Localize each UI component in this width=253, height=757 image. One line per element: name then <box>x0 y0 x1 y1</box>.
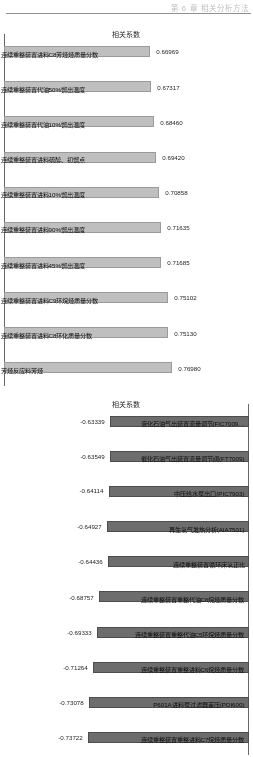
scanned-page: 第 6 章 相关分析方法 相关系数 0.669690.673170.684600… <box>0 0 253 757</box>
category-label-cell: 芳烃反应料芳烃 <box>4 350 5 385</box>
category-label: 再生氢气发热分析(AIA7501) <box>169 524 245 533</box>
category-label-cell: 连续重整装置进料C9环烷烃质量分数 <box>4 280 5 315</box>
category-label: 连续重整装置重整进料C7烷烃质量分数 <box>141 735 245 744</box>
category-label: 连续重整装置进料90%馏出温度 <box>1 225 85 234</box>
category-label: 中压给水泵出口(PIC7903) <box>174 489 244 498</box>
bar-value-label: 0.71635 <box>167 224 189 231</box>
bar-value-label: -0.63339 <box>81 418 105 425</box>
running-head: 第 6 章 相关分析方法 <box>171 2 249 13</box>
bar-value-label: -0.73722 <box>58 734 82 741</box>
category-label-cell: 连续重整装置进料C8环化质量分数 <box>4 315 5 350</box>
category-label-cell: 中压给水泵出口(PIC7903) <box>248 474 249 509</box>
category-label-cell: 连续重整装置重整代油C6烷烃质量分数 <box>248 579 249 614</box>
category-label: 连续重整装置重整进料C6烷烃质量分数 <box>141 665 245 674</box>
bar-value-label: 0.75130 <box>175 329 197 336</box>
category-label: 连续重整装置代油50%馏出温度 <box>1 84 85 93</box>
category-labels-positive: 连续重整装置进料C8芳烃烃质量分数连续重整装置代油50%馏出温度连续重整装置代油… <box>4 34 5 386</box>
category-label-cell: 连续重整装置进料C8芳烃烃质量分数 <box>4 34 5 69</box>
bar-value-label: 0.71685 <box>167 259 189 266</box>
category-label: 芳烃反应料芳烃 <box>1 365 43 374</box>
bar-value-label: 0.67317 <box>158 83 180 90</box>
bar-value-label: 0.69420 <box>162 154 184 161</box>
category-label: 液化石油气出装置流量调节(FIC7009… <box>141 419 245 428</box>
category-label-cell: 液化石油气出装置流量调节(FIC7009… <box>248 404 249 439</box>
category-label-cell: 再生氢气发热分析(AIA7501) <box>248 509 249 544</box>
category-label: 连续重整装置进料C9环烷烃质量分数 <box>1 295 99 304</box>
category-label-cell: 连续重整装置进料90%馏出温度 <box>4 210 5 245</box>
category-label: 连续重整装置循环床氢正比 <box>173 559 245 568</box>
bar-value-label: -0.64114 <box>79 488 103 495</box>
category-label-cell: P601A进料泵过滤器差压(PDI600) <box>248 685 249 720</box>
category-label: 连续重整装置进料硫醇、初馏点 <box>1 155 85 164</box>
bar-value-label: 0.76980 <box>179 364 201 371</box>
bar-value-label: -0.68757 <box>69 593 93 600</box>
negative-correlation-chart: 相关系数 -0.63339-0.63549-0.64114-0.64927-0.… <box>0 388 253 757</box>
bar-value-label: 0.75102 <box>175 294 197 301</box>
bar-value-label: 0.68460 <box>160 118 182 125</box>
bar-value-label: 0.66969 <box>157 48 179 55</box>
header-rule <box>6 13 251 14</box>
category-label: 连续重整装置进料10%馏出温度 <box>1 190 85 199</box>
positive-correlation-chart: 相关系数 0.669690.673170.684600.694200.70858… <box>0 18 253 388</box>
category-label-cell: 连续重整装置进料硫醇、初馏点 <box>4 139 5 174</box>
bar-value-label: -0.63549 <box>80 453 104 460</box>
category-label-cell: 连续重整装置循环床氢正比 <box>248 544 249 579</box>
category-labels-negative: 液化石油气出装置流量调节(FIC7009…催化石油气出装置流量调节阀(FT700… <box>248 404 249 756</box>
category-label-cell: 连续重整装置重整进料C7烷烃质量分数 <box>248 720 249 755</box>
category-label-cell: 连续重整装置进料45%馏出温度 <box>4 245 5 280</box>
bar-value-label: -0.64436 <box>78 558 102 565</box>
bar-value-label: -0.64927 <box>77 523 101 530</box>
category-label: 连续重整装置进料45%馏出温度 <box>1 260 85 269</box>
category-label-cell: 催化石油气出装置流量调节阀(FT7009) <box>248 439 249 474</box>
category-label-cell: 连续重整装置重整代油C5环烷烃质量分数 <box>248 614 249 649</box>
bar-value-label: 0.70858 <box>165 189 187 196</box>
category-label-cell: 连续重整装置进料10%馏出温度 <box>4 175 5 210</box>
bar-value-label: -0.69333 <box>68 629 92 636</box>
bar-value-label: -0.73078 <box>59 699 83 706</box>
category-label: 连续重整装置进料C8环化质量分数 <box>1 330 93 339</box>
category-label-cell: 连续重整装置代油50%馏出温度 <box>4 69 5 104</box>
category-label: 连续重整装置重整代油C5环烷烃质量分数 <box>135 630 245 639</box>
category-label: 连续重整装置代油10%馏出温度 <box>1 119 85 128</box>
category-label: P601A进料泵过滤器差压(PDI600) <box>153 700 244 709</box>
category-label: 催化石油气出装置流量调节阀(FT7009) <box>141 454 244 463</box>
category-label: 连续重整装置进料C8芳烃烃质量分数 <box>1 49 99 58</box>
bar-value-label: -0.71264 <box>63 664 87 671</box>
charts-container: 相关系数 0.669690.673170.684600.694200.70858… <box>0 18 253 757</box>
category-label-cell: 连续重整装置代油10%馏出温度 <box>4 104 5 139</box>
figure-canvas: 相关系数 0.669690.673170.684600.694200.70858… <box>0 18 253 757</box>
category-label-cell: 连续重整装置重整进料C6烷烃质量分数 <box>248 650 249 685</box>
category-label: 连续重整装置重整代油C6烷烃质量分数 <box>141 594 245 603</box>
